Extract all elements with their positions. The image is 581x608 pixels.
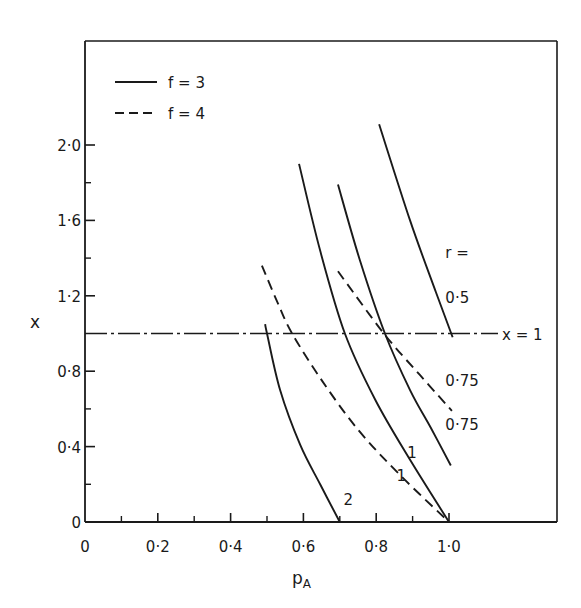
curve-label: 2 <box>343 491 353 509</box>
x-tick-label: 1·0 <box>437 538 461 556</box>
axis-tick-labels: 00·20·40·60·81·000·40·81·21·62·0 <box>57 137 461 556</box>
curve-dashed-r-1 <box>262 266 449 522</box>
x-tick-label: 0·8 <box>364 538 388 556</box>
curve-label: 1 <box>397 467 407 485</box>
x-tick-label: 0 <box>80 538 90 556</box>
legend-label-f3: f = 3 <box>168 74 205 92</box>
x-axis-label-main: p <box>292 568 303 588</box>
curve-label: 1 <box>407 444 417 462</box>
x-tick-label: 0·4 <box>219 538 243 556</box>
y-tick-label: 2·0 <box>57 137 81 155</box>
curve-label: 0·5 <box>445 289 469 307</box>
x-tick-label: 0·2 <box>146 538 170 556</box>
curve-solid-r-0_5 <box>379 124 453 337</box>
y-tick-label: 0·4 <box>57 439 81 457</box>
y-tick-label: 0·8 <box>57 363 81 381</box>
y-tick-label: 0 <box>71 514 81 532</box>
legend-label-f4: f = 4 <box>168 105 205 123</box>
curve-dashed-r-0_75 <box>338 271 452 410</box>
plot-frame <box>85 41 557 522</box>
x-tick-label: 0·6 <box>291 538 315 556</box>
curve-label: r = <box>445 244 469 262</box>
curve-solid-r-1 <box>299 164 449 522</box>
x-axis-label-sub: A <box>303 577 312 591</box>
curve-solid-r-2 <box>265 324 340 522</box>
legend: f = 3 f = 4 <box>115 74 205 123</box>
curve-solid-r-0_75 <box>338 185 451 466</box>
chart: 00·20·40·60·81·000·40·81·21·62·0 2110·75… <box>0 0 581 608</box>
x-axis-label: pA <box>292 568 312 591</box>
curve-label: 0·75 <box>445 416 478 434</box>
reference-line-label: x = 1 <box>502 326 543 344</box>
curve-label: 0·75 <box>445 372 478 390</box>
curves <box>262 124 453 522</box>
y-tick-label: 1·6 <box>57 212 81 230</box>
y-axis-label: x <box>30 312 40 332</box>
y-tick-label: 1·2 <box>57 288 81 306</box>
